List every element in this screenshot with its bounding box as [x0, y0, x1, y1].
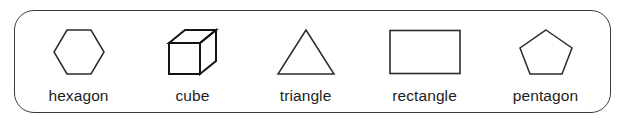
- shape-label-triangle: triangle: [280, 87, 332, 104]
- shape-item-rectangle[interactable]: rectangle: [363, 10, 486, 104]
- hexagon-shape-icon: [39, 27, 119, 77]
- shape-item-triangle[interactable]: triangle: [248, 10, 363, 104]
- shapes-worksheet: hexagon cube tr: [0, 0, 629, 127]
- shape-list: hexagon cube tr: [14, 10, 611, 113]
- shape-label-hexagon: hexagon: [48, 87, 108, 104]
- shape-label-rectangle: rectangle: [392, 87, 457, 104]
- shape-item-pentagon[interactable]: pentagon: [486, 10, 605, 104]
- rectangle-shape-icon: [385, 27, 465, 77]
- shape-label-pentagon: pentagon: [513, 87, 578, 104]
- cube-shape-icon: [153, 27, 233, 77]
- pentagon-shape-icon: [506, 27, 586, 77]
- triangle-shape-icon: [266, 27, 346, 77]
- shape-label-cube: cube: [176, 87, 210, 104]
- shape-item-hexagon[interactable]: hexagon: [20, 10, 137, 104]
- shape-item-cube[interactable]: cube: [137, 10, 248, 104]
